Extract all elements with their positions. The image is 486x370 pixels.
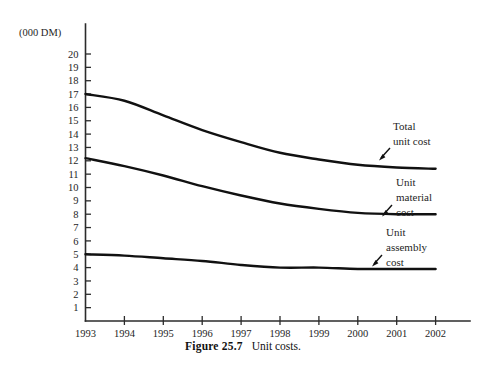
y-axis-tick-label: 14 <box>68 129 79 140</box>
annotation-material-line2: material <box>396 191 432 203</box>
x-axis-tick-label: 1999 <box>308 328 329 339</box>
y-axis-tick-label: 6 <box>73 236 78 247</box>
y-axis-tick-label: 3 <box>73 276 78 287</box>
figure-unit-costs: (000 DM) 2019181716151413121110987654321… <box>0 0 486 370</box>
figure-caption-number: Figure 25.7 <box>185 340 243 352</box>
y-axis-tick-label: 17 <box>68 89 79 100</box>
x-axis-tick-label: 1993 <box>75 328 96 339</box>
x-axis-ticks: 1993199419951996199719981999200020012002 <box>75 316 446 339</box>
y-axis-tick-label: 18 <box>68 75 79 86</box>
y-axis-tick-label: 5 <box>73 249 78 260</box>
y-axis-tick-label: 11 <box>68 169 78 180</box>
y-axis-unit-label: (000 DM) <box>19 27 62 39</box>
y-axis-tick-label: 9 <box>73 195 78 206</box>
y-axis-tick-label: 10 <box>68 182 79 193</box>
y-axis-ticks: 2019181716151413121110987654321 <box>68 49 91 314</box>
annotation-total-line2: unit cost <box>393 135 431 147</box>
annotation-total-line1: Total <box>393 120 415 132</box>
annotation-assembly-line2: assembly <box>386 241 427 253</box>
annotation-total-unit-cost: Total unit cost <box>379 120 431 161</box>
y-axis-tick-label: 19 <box>68 62 79 73</box>
y-axis-unit-label-text: (000 DM) <box>19 27 62 39</box>
x-axis-tick-label: 1995 <box>153 328 174 339</box>
annotation-material-line1: Unit <box>396 176 416 188</box>
y-axis-tick-label: 8 <box>73 209 78 220</box>
y-axis-tick-label: 13 <box>68 142 79 153</box>
y-axis-tick-label: 7 <box>73 222 78 233</box>
y-axis-tick-label: 4 <box>73 262 79 273</box>
y-axis-tick-label: 15 <box>68 115 79 126</box>
chart-series <box>86 94 436 269</box>
figure-caption: Figure 25.7Unit costs. <box>0 340 486 352</box>
annotation-material-line3: cost <box>396 206 414 218</box>
y-axis-tick-label: 20 <box>68 49 79 60</box>
annotation-assembly-line1: Unit <box>386 226 406 238</box>
y-axis-tick-label: 16 <box>68 102 79 113</box>
series-line-unit-assembly-cost <box>86 254 436 269</box>
annotation-unit-material-cost: Unit material cost <box>382 176 432 218</box>
x-axis-tick-label: 2002 <box>425 328 446 339</box>
y-axis-tick-label: 12 <box>68 155 79 166</box>
y-axis-tick-label: 1 <box>73 302 78 313</box>
figure-caption-text: Unit costs. <box>252 340 301 352</box>
x-axis-tick-label: 1998 <box>270 328 291 339</box>
x-axis-tick-label: 2000 <box>347 328 368 339</box>
annotation-unit-assembly-cost: Unit assembly cost <box>372 226 427 268</box>
x-axis-tick-label: 1996 <box>192 328 213 339</box>
x-axis-tick-label: 2001 <box>386 328 407 339</box>
annotation-assembly-line3: cost <box>386 256 404 268</box>
x-axis-tick-label: 1997 <box>231 328 252 339</box>
line-chart: (000 DM) 2019181716151413121110987654321… <box>0 0 486 370</box>
x-axis-tick-label: 1994 <box>114 328 136 339</box>
chart-axes <box>86 24 471 321</box>
y-axis-tick-label: 2 <box>73 289 78 300</box>
